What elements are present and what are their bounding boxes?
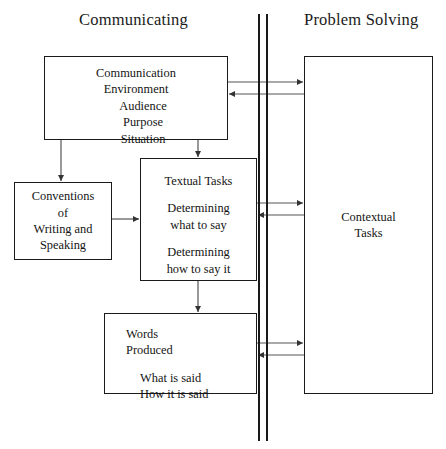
box-line: Writing and [33,221,92,237]
column-heading-communicating: Communicating [79,10,188,30]
box-line: How it is said [126,386,209,402]
box-line: what to say [170,217,226,233]
box-textual-tasks: Textual Tasks Determining what to say De… [140,158,257,281]
box-line: of [58,205,68,221]
box-line: Contextual [341,209,395,225]
box-contextual-tasks: Contextual Tasks [304,56,433,394]
box-line: Situation [107,131,166,147]
box-line: Speaking [40,237,86,253]
column-heading-problem-solving: Problem Solving [304,10,418,30]
box-line: Environment [104,81,169,97]
box-line: Conventions [32,188,95,204]
box-title: Words [126,326,158,342]
box-line: Purpose [109,114,163,130]
box-line: Determining [167,244,230,260]
box-line: What is said [126,370,201,386]
box-line: Determining [167,200,230,216]
column-divider-line-right [266,14,268,441]
box-words-produced: Words Produced What is said How it is sa… [104,313,257,394]
box-conventions-of-writing-and-speaking: Conventions of Writing and Speaking [14,182,112,260]
box-line: how to say it [167,261,231,277]
box-line: Audience [105,98,166,114]
box-line: Communication [96,65,176,81]
box-title: Produced [126,342,173,358]
figure-diagram: Communicating Problem Solving Communicat… [0,0,446,449]
box-title: Textual Tasks [165,173,233,189]
box-line: Tasks [354,225,382,241]
column-divider-line-left [258,14,260,441]
box-communication-environment: Communication Environment Audience Purpo… [44,56,228,140]
